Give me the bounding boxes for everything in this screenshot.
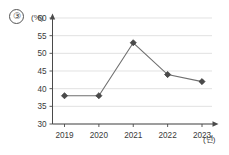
- x-axis-tick-labels: 20192020202120222023: [55, 131, 211, 140]
- y-axis-tick-label: 55: [37, 32, 47, 41]
- y-axis-arrowhead: [50, 14, 55, 20]
- data-point-marker: [199, 79, 205, 85]
- data-point-marker: [96, 93, 102, 99]
- x-axis-tick-label: 2023: [193, 131, 212, 140]
- y-axis-tick-label: 60: [37, 14, 47, 23]
- y-axis-tick-labels: 30354045505560: [37, 14, 47, 129]
- y-axis-tick-label: 30: [37, 120, 47, 129]
- y-axis-tick-label: 35: [37, 102, 47, 111]
- x-axis-tick-label: 2022: [159, 131, 178, 140]
- x-axis-tick-label: 2020: [90, 131, 109, 140]
- y-axis-tick-label: 40: [37, 85, 47, 94]
- line-chart-plot: 30354045505560 20192020202120222023: [0, 0, 229, 155]
- y-axis-tick-label: 45: [37, 67, 47, 76]
- x-axis-arrowhead: [213, 121, 219, 126]
- gridlines: [50, 18, 213, 124]
- chart-figure: ③ (%) (년) 30354045505560 201920202021202…: [0, 0, 229, 155]
- data-point-markers: [61, 40, 205, 99]
- y-axis-tick-label: 50: [37, 49, 47, 58]
- data-point-marker: [61, 93, 67, 99]
- data-series-line: [65, 43, 203, 96]
- x-axis-tick-label: 2019: [55, 131, 74, 140]
- x-axis-tick-label: 2021: [124, 131, 143, 140]
